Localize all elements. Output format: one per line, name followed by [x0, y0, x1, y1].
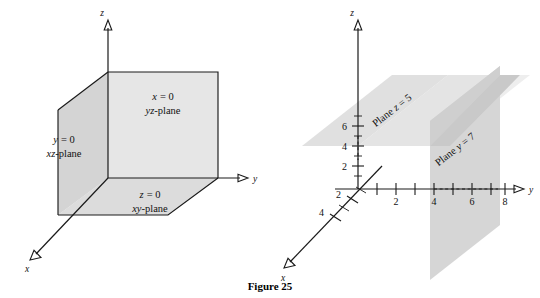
x-tick-label-4: 4	[319, 207, 324, 218]
y-tick-label-6: 6	[470, 196, 475, 207]
z-tick-label-6: 6	[342, 121, 347, 132]
xz-plane-name: xz-plane	[46, 148, 82, 159]
yz-plane-equation: x= 0	[151, 91, 173, 102]
y-tick-label-8: 8	[503, 196, 508, 207]
z-tick-label-4: 4	[342, 141, 347, 152]
yz-plane-fill	[108, 72, 218, 178]
y-tick-label-2: 2	[394, 196, 399, 207]
z-axis-label-right: z	[349, 8, 354, 18]
figure-caption: Figure 25	[248, 280, 293, 292]
xy-plane-equation: z= 0	[139, 189, 161, 200]
xy-plane-name: xy-plane	[131, 203, 168, 214]
x-tick-label-2: 2	[336, 189, 341, 200]
figure-svg: z y x x= 0 yz-plane y= 0 xz-plane z= 0 x…	[0, 0, 540, 298]
y-tick-label-4: 4	[432, 196, 437, 207]
x-axis-label: x	[24, 264, 30, 274]
yz-plane-name: yz-plane	[145, 105, 181, 116]
y-axis-label-right: y	[528, 185, 534, 195]
z-axis-label: z	[99, 8, 104, 18]
z-tick-label-2: 2	[342, 161, 347, 172]
figure-25-container: z y x x= 0 yz-plane y= 0 xz-plane z= 0 x…	[0, 0, 540, 298]
y-axis-label: y	[252, 174, 258, 184]
xz-plane-equation: y= 0	[52, 134, 74, 145]
